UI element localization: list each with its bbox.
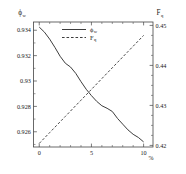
- y-left-axis-label: ϕw: [18, 9, 26, 18]
- y-left-tick-label: 0.934: [17, 26, 31, 33]
- y-right-axis-label: Fq: [157, 9, 165, 18]
- y-right-tick-label: 0.45: [156, 22, 167, 29]
- chart-figure: 05100.9260.9280.930.9320.9340.420.430.44…: [0, 0, 186, 174]
- y-left-tick-label: 0.926: [17, 128, 31, 135]
- legend-label-f-q: Fq: [90, 34, 97, 43]
- axis-tick-labels: 05100.9260.9280.930.9320.9340.420.430.44…: [17, 22, 166, 157]
- series-line-phi-w: [39, 27, 143, 142]
- y-left-tick-label: 0.932: [17, 52, 31, 59]
- x-tick-label: 5: [90, 149, 93, 156]
- x-tick-label: 0: [38, 149, 41, 156]
- x-tick-label: 10: [141, 149, 147, 156]
- series-line-f-q: [39, 35, 143, 143]
- legend: ϕwFq: [62, 26, 98, 43]
- y-left-tick-label: 0.93: [20, 77, 31, 84]
- y-right-tick-label: 0.44: [156, 62, 167, 69]
- y-left-tick-label: 0.928: [17, 103, 31, 110]
- y-right-tick-label: 0.43: [156, 102, 167, 109]
- plot-canvas: 05100.9260.9280.930.9320.9340.420.430.44…: [0, 0, 186, 174]
- data-series-group: [39, 27, 143, 143]
- x-axis-unit-label: %: [149, 155, 154, 161]
- y-right-tick-label: 0.42: [156, 142, 167, 149]
